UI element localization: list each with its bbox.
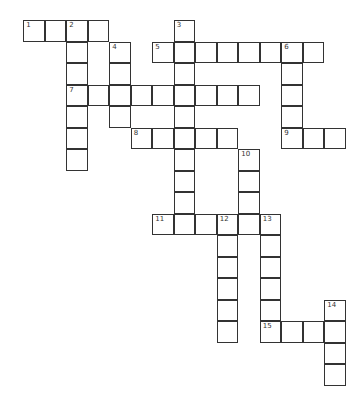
crossword-cell[interactable]: [260, 278, 282, 300]
clue-number: 3: [177, 22, 181, 29]
crossword-cell[interactable]: [324, 343, 346, 365]
crossword-cell[interactable]: [174, 128, 196, 150]
crossword-cell[interactable]: [66, 128, 88, 150]
crossword-cell[interactable]: [174, 85, 196, 107]
clue-number: 10: [241, 151, 250, 158]
crossword-cell[interactable]: [303, 321, 325, 343]
crossword-cell[interactable]: [195, 85, 217, 107]
crossword-cell[interactable]: [195, 128, 217, 150]
crossword-cell[interactable]: [324, 364, 346, 386]
clue-number: 15: [263, 323, 272, 330]
crossword-cell[interactable]: [66, 149, 88, 171]
crossword-cell[interactable]: [88, 20, 110, 42]
crossword-cell[interactable]: [217, 278, 239, 300]
crossword-cell[interactable]: [238, 42, 260, 64]
crossword-cell[interactable]: [88, 85, 110, 107]
crossword-cell[interactable]: 15: [260, 321, 282, 343]
clue-number: 2: [69, 22, 73, 29]
crossword-cell[interactable]: 3: [174, 20, 196, 42]
crossword-cell[interactable]: [152, 85, 174, 107]
crossword-cell[interactable]: 8: [131, 128, 153, 150]
clue-number: 4: [112, 44, 116, 51]
crossword-cell[interactable]: 5: [152, 42, 174, 64]
crossword-cell[interactable]: [238, 171, 260, 193]
crossword-cell[interactable]: [195, 42, 217, 64]
crossword-cell[interactable]: [238, 85, 260, 107]
crossword-cell[interactable]: [260, 257, 282, 279]
crossword-cell[interactable]: [66, 106, 88, 128]
crossword-cell[interactable]: [260, 300, 282, 322]
crossword-cell[interactable]: 7: [66, 85, 88, 107]
clue-number: 9: [284, 130, 288, 137]
crossword-cell[interactable]: [260, 235, 282, 257]
crossword-cell[interactable]: [303, 42, 325, 64]
crossword-cell[interactable]: 9: [281, 128, 303, 150]
crossword-cell[interactable]: [66, 42, 88, 64]
crossword-cell[interactable]: [195, 214, 217, 236]
crossword-cell[interactable]: [217, 235, 239, 257]
crossword-cell[interactable]: 10: [238, 149, 260, 171]
crossword-cell[interactable]: [324, 128, 346, 150]
crossword-cell[interactable]: [281, 63, 303, 85]
crossword-cell[interactable]: [45, 20, 67, 42]
crossword-cell[interactable]: 4: [109, 42, 131, 64]
crossword-cell[interactable]: [217, 321, 239, 343]
clue-number: 1: [26, 22, 30, 29]
crossword-cell[interactable]: [109, 63, 131, 85]
crossword-cell[interactable]: [174, 149, 196, 171]
crossword-cell[interactable]: [217, 85, 239, 107]
crossword-cell[interactable]: [238, 192, 260, 214]
crossword-cell[interactable]: 11: [152, 214, 174, 236]
crossword-cell[interactable]: [174, 106, 196, 128]
crossword-cell[interactable]: 6: [281, 42, 303, 64]
clue-number: 14: [327, 302, 336, 309]
crossword-cell[interactable]: [66, 63, 88, 85]
crossword-cell[interactable]: [324, 321, 346, 343]
crossword-cell[interactable]: [131, 85, 153, 107]
clue-number: 7: [69, 87, 73, 94]
crossword-cell[interactable]: 14: [324, 300, 346, 322]
crossword-cell[interactable]: [174, 171, 196, 193]
crossword-cell[interactable]: [281, 321, 303, 343]
crossword-cell[interactable]: [174, 63, 196, 85]
crossword-cell[interactable]: 13: [260, 214, 282, 236]
crossword-cell[interactable]: [152, 128, 174, 150]
crossword-cell[interactable]: [303, 128, 325, 150]
clue-number: 8: [134, 130, 138, 137]
crossword-cell[interactable]: 12: [217, 214, 239, 236]
crossword-cell[interactable]: [217, 300, 239, 322]
crossword-cell[interactable]: [281, 106, 303, 128]
crossword-cell[interactable]: [217, 257, 239, 279]
crossword-cell[interactable]: [174, 42, 196, 64]
crossword-cell[interactable]: [281, 85, 303, 107]
crossword-cell[interactable]: [109, 106, 131, 128]
clue-number: 11: [155, 216, 164, 223]
crossword-cell[interactable]: [174, 214, 196, 236]
clue-number: 13: [263, 216, 272, 223]
crossword-cell[interactable]: [109, 85, 131, 107]
clue-number: 12: [220, 216, 229, 223]
clue-number: 6: [284, 44, 288, 51]
crossword-cell[interactable]: [174, 192, 196, 214]
crossword-cell[interactable]: [260, 42, 282, 64]
crossword-grid: 127345698101112131514: [0, 0, 364, 412]
crossword-cell[interactable]: 2: [66, 20, 88, 42]
clue-number: 5: [155, 44, 159, 51]
crossword-cell[interactable]: [217, 42, 239, 64]
crossword-cell[interactable]: 1: [23, 20, 45, 42]
crossword-cell[interactable]: [217, 128, 239, 150]
crossword-cell[interactable]: [238, 214, 260, 236]
